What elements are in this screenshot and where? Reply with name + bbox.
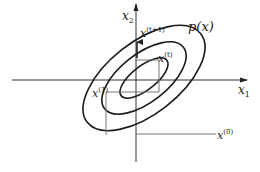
- x0-label: x(0): [217, 128, 233, 142]
- xt-label: x(t): [158, 51, 173, 65]
- x2-axis-label: x2: [122, 9, 134, 25]
- xt1-label: x(t+1): [140, 26, 165, 40]
- x1-axis-label: x1: [238, 83, 250, 99]
- gibbs-sampling-diagram: x2 x1 p(x) x(t+1) x(t) x(1) x(0): [0, 0, 260, 172]
- distribution-label: p(x): [188, 19, 214, 34]
